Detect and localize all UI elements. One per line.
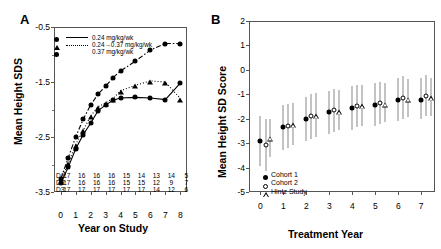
panel-a-point-s2-3 — [81, 117, 86, 122]
panel-a-counts-cell: 12 — [153, 179, 160, 186]
panel-b: B Mean Height SD Score 210-1-2-3-4-5 012… — [205, 0, 441, 249]
panel-a-point-s1-11 — [162, 81, 168, 86]
panel-b-legend-label: Hintz Study — [271, 188, 307, 197]
panel-b-y-tick-label: 1 — [219, 40, 245, 50]
panel-a-series-line-2 — [61, 44, 181, 179]
panel-a-point-s2-11 — [163, 41, 168, 46]
panel-b-x-tick — [421, 192, 422, 195]
panel-b-x-tick-label: 6 — [388, 201, 408, 211]
panel-a-counts-cell: 5 — [184, 172, 188, 179]
panel-a-point-s2-1 — [66, 155, 71, 160]
panel-a-counts-cell: 17 — [78, 186, 85, 193]
figure-container: A Mean Height SDS -0.5-1.5-2.5-3.5 01234… — [0, 0, 441, 249]
panel-b-y-tick-label: -2 — [219, 114, 245, 124]
panel-a-counts-cell: 15 — [138, 179, 145, 186]
panel-b-point-s2-6 — [405, 97, 411, 102]
panel-a-counts-cell: 16 — [78, 179, 85, 186]
panel-a-legend-label: 0.24→0.37 mg/kg/wk — [92, 41, 152, 48]
panel-b-point-s2-4 — [359, 104, 365, 109]
panel-a-point-s2-8 — [118, 69, 123, 74]
panel-b-legend-label: Cohort 1 — [271, 171, 298, 180]
panel-a-counts-cell: 16 — [93, 172, 100, 179]
panel-a-counts-cell: 17 — [123, 186, 130, 193]
panel-a-point-s2-6 — [103, 84, 108, 89]
panel-a-point-s1-6 — [103, 101, 109, 106]
panel-a-counts-cell: 12 — [168, 186, 175, 193]
panel-b-x-axis-title: Treatment Year — [288, 228, 363, 240]
panel-b-point-s2-7 — [428, 96, 434, 101]
panel-b-y-tick-label: 2 — [219, 16, 245, 26]
panel-a-point-s1-9 — [132, 84, 138, 89]
panel-a-point-s2-9 — [133, 59, 138, 64]
panel-b-y-tick — [246, 168, 249, 169]
panel-b-legend-marker-otri-icon — [263, 192, 269, 197]
panel-a-legend-line-swatch — [66, 37, 88, 38]
panel-b-y-tick-label: -3 — [219, 138, 245, 148]
panel-a-point-s1-7 — [110, 97, 116, 102]
panel-b-x-tick-label: 0 — [250, 201, 270, 211]
panel-a-point-s2-4 — [88, 103, 93, 108]
panel-a-point-s1-4 — [88, 115, 94, 120]
panel-b-y-tick — [246, 45, 249, 46]
panel-b-point-s0-2 — [304, 116, 309, 121]
panel-b-x-tick-label: 7 — [411, 201, 431, 211]
panel-a-counts-cell: 17 — [138, 186, 145, 193]
panel-b-x-tick-label: 4 — [342, 201, 362, 211]
panel-b-y-tick — [246, 21, 249, 22]
panel-a-point-s0-9 — [133, 95, 138, 100]
panel-a-point-s0-12 — [178, 81, 183, 86]
panel-b-x-tick — [398, 192, 399, 195]
panel-b-y-tick-label: -5 — [219, 187, 245, 197]
panel-a-point-s0-4 — [88, 121, 93, 126]
panel-a-counts-cell: 16 — [108, 179, 115, 186]
panel-a-legend-marker-tri-icon — [54, 45, 60, 50]
panel-b-x-tick — [260, 192, 261, 195]
panel-a-counts-cell: 15 — [123, 179, 130, 186]
panel-b-legend-label: Cohort 2 — [271, 179, 298, 188]
panel-b-legend-marker-ocircle-icon — [263, 184, 268, 189]
panel-a-counts-cell: 9 — [169, 179, 173, 186]
panel-b-point-s2-1 — [290, 123, 296, 128]
panel-b-y-tick — [246, 119, 249, 120]
panel-a-counts-cell: 17 — [63, 179, 70, 186]
panel-a-point-s1-12 — [177, 97, 183, 102]
panel-a-point-s1-8 — [118, 89, 124, 94]
panel-b-x-tick — [375, 192, 376, 195]
panel-b-point-s1-0 — [263, 143, 268, 148]
panel-b-y-tick — [246, 192, 249, 193]
panel-a-legend-line-swatch — [66, 45, 88, 46]
panel-a-counts-cell: 16 — [93, 179, 100, 186]
panel-a-counts-cell: 17 — [63, 172, 70, 179]
panel-a-counts-cell: 6 — [184, 186, 188, 193]
panel-b-x-tick-label: 1 — [273, 201, 293, 211]
panel-a-point-s1-1 — [65, 162, 71, 167]
panel-b-x-tick-label: 5 — [365, 201, 385, 211]
panel-a-counts-cell: 14 — [168, 172, 175, 179]
panel-a-point-s2-2 — [73, 135, 78, 140]
panel-b-point-s2-5 — [382, 102, 388, 107]
panel-a-counts-cell: 15 — [123, 172, 130, 179]
panel-a-point-s1-5 — [95, 105, 101, 110]
panel-a-counts-cell: 16 — [108, 172, 115, 179]
panel-a-point-s1-3 — [80, 129, 86, 134]
panel-b-point-s2-2 — [313, 114, 319, 119]
panel-a-counts-cell: 13 — [153, 172, 160, 179]
panel-a-point-s0-10 — [148, 95, 153, 100]
panel-b-y-tick-label: -1 — [219, 89, 245, 99]
panel-b-point-s0-0 — [258, 138, 263, 143]
panel-b-legend-marker-circle-icon — [263, 175, 268, 180]
panel-a-legend-label: 0.24 mg/kg/wk — [92, 34, 133, 41]
panel-a-counts-cell: 16 — [78, 172, 85, 179]
panel-b-x-tick-label: 3 — [319, 201, 339, 211]
panel-b-x-tick — [329, 192, 330, 195]
panel-b-point-s2-3 — [336, 109, 342, 114]
panel-a-counts-cell: 17 — [63, 186, 70, 193]
panel-b-x-tick — [352, 192, 353, 195]
panel-b-point-s2-0 — [267, 136, 273, 141]
panel-b-point-s0-7 — [419, 97, 424, 102]
panel-a-point-s1-10 — [147, 79, 153, 84]
panel-a-point-s2-12 — [178, 41, 183, 46]
panel-b-y-tick-label: -4 — [219, 163, 245, 173]
panel-b-y-tick — [246, 70, 249, 71]
panel-a-legend-label: 0.37 mg/kg/wk — [92, 48, 133, 55]
